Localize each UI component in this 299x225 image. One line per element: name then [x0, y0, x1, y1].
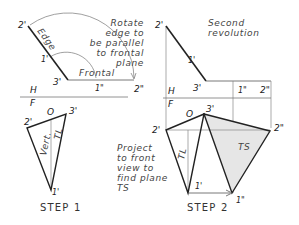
fold-label-h: H [30, 85, 37, 95]
rotate-note-line-5: plane [115, 58, 144, 68]
second-revolution-line-1: Second [208, 18, 245, 28]
fold-label-f: F [30, 98, 36, 108]
step2-front-labels: 2' O 3' 2" 1' 1" TL TS Project to front … [117, 104, 284, 205]
label-1dblprime-s2: 1" [238, 86, 247, 95]
label-3prime-front: 3' [69, 106, 77, 116]
project-note-line-4: find plane [117, 173, 168, 183]
project-note-line-3: view to [117, 163, 154, 173]
project-note-line-5: TS [117, 183, 129, 193]
step2-caption: STEP 2 [187, 202, 229, 213]
tl-label: TL [52, 127, 64, 141]
label-3prime: 3' [53, 77, 61, 87]
label-2dblprime: 2" [134, 84, 144, 94]
rotate-note-line-2: edge to [105, 28, 144, 38]
label-3prime-s2: 3' [193, 83, 201, 93]
step1-caption: STEP 1 [40, 202, 82, 213]
label-3prime-front-s2: 3' [206, 104, 214, 114]
label-o: O [47, 107, 54, 117]
descriptive-geometry-figure: 2' 1' 3' 1" 2" Edge Frontal Rotate edge … [0, 0, 299, 225]
label-2prime-front-s2: 2' [152, 125, 160, 135]
true-shape-fill [204, 114, 270, 193]
label-o-s2: O [186, 109, 193, 119]
label-1prime: 1' [41, 55, 48, 64]
label-1prime-front-s2: 1' [195, 182, 202, 191]
label-2dblprime-front-s2: 2" [274, 123, 284, 133]
label-2dblprime-s2: 2" [260, 85, 270, 95]
fold-label-f-s2: F [168, 99, 174, 109]
ts-label: TS [238, 142, 250, 152]
label-2prime-front: 2' [24, 117, 32, 127]
rotate-note-line-3: be parallel [90, 38, 144, 48]
project-note-line-2: to front [117, 153, 155, 163]
step1-top-labels: 2' 1' 3' 1" 2" Edge Frontal Rotate edge … [18, 18, 144, 108]
frontal-label: Frontal [79, 68, 115, 78]
label-2prime-s2: 2' [155, 20, 163, 30]
second-revolution-line-2: revolution [208, 28, 260, 38]
label-1dblprime-front-s2: 1" [236, 196, 245, 205]
label-1prime-front: 1' [52, 188, 59, 197]
rotate-note-line-4: to frontal [96, 48, 144, 58]
edge-line-step2 [166, 26, 206, 81]
label-1dblprime: 1" [95, 84, 104, 93]
project-note-line-1: Project [117, 143, 152, 153]
rotate-note-line-1: Rotate [111, 18, 144, 28]
label-1prime-s2: 1' [188, 56, 195, 65]
step2-top-labels: 2' 1' 3' 1" 2" Second revolution H F [155, 18, 270, 109]
label-2prime: 2' [18, 20, 26, 30]
tl-label-s2: TL [176, 147, 188, 161]
fold-label-h-s2: H [168, 86, 175, 96]
